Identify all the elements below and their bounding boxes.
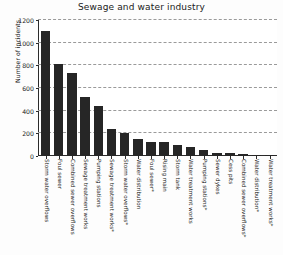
x-label-slot: Water distribution*: [250, 159, 263, 253]
x-label-slot: Water treatment works: [184, 159, 197, 253]
x-label-slot: Foul sewer*: [144, 159, 157, 253]
x-tick-label: Water distribution*: [254, 159, 260, 212]
bar-slot: [79, 20, 92, 156]
bar-slot: [263, 20, 276, 156]
x-label-slot: Storm tank: [171, 159, 184, 253]
x-label-slot: Combined sewer overflows: [65, 159, 78, 253]
bar-slot: [184, 20, 197, 156]
x-label-slot: Pumping stations*: [197, 159, 210, 253]
x-tick-label: Storm water overflows*: [122, 159, 128, 225]
x-tick-label: Rising main: [161, 159, 167, 192]
bar[interactable]: [107, 129, 116, 156]
x-tick-label: Pumping stations: [95, 159, 101, 207]
bar[interactable]: [133, 139, 142, 156]
bar-slot: [223, 20, 236, 156]
x-label-slot: Water distribution: [131, 159, 144, 253]
bar-slot: [131, 20, 144, 156]
x-tick-label: Water treatment works: [188, 159, 194, 224]
bar[interactable]: [67, 73, 76, 156]
y-tick-label: 600: [22, 85, 34, 92]
bar[interactable]: [159, 142, 168, 156]
bar-slot: [92, 20, 105, 156]
x-label-slot: Cess pits: [223, 159, 236, 253]
bar[interactable]: [94, 106, 103, 156]
y-tick-label: 0: [30, 153, 34, 160]
bar-slot: [158, 20, 171, 156]
bar[interactable]: [54, 64, 63, 156]
y-tick-label: 1000: [18, 39, 34, 46]
plot-area: 020040060080010001200: [38, 20, 277, 156]
bar-slot: [250, 20, 263, 156]
x-tick-label: Combined sewer overflows*: [240, 159, 246, 237]
x-label-slot: Combined sewer overflows*: [237, 159, 250, 253]
x-label-slot: Rising main: [158, 159, 171, 253]
y-tick-label: 400: [22, 107, 34, 114]
y-tick-label: 800: [22, 62, 34, 69]
x-tick-label: Foul sewer*: [148, 159, 154, 192]
x-label-slot: Foul sewer: [52, 159, 65, 253]
bar-slot: [210, 20, 223, 156]
bar-slot: [144, 20, 157, 156]
y-tick-mark: [36, 156, 39, 157]
x-tick-label: Sewage treatment works: [82, 159, 88, 229]
bar[interactable]: [173, 145, 182, 156]
x-tick-label: Combined sewer overflows: [69, 159, 75, 235]
x-tick-label: Cess pits: [227, 159, 233, 184]
x-tick-label: Water treatment works*: [267, 159, 273, 226]
x-label-slot: Sewage treatment works*: [105, 159, 118, 253]
bar-slot: [52, 20, 65, 156]
bar[interactable]: [80, 97, 89, 156]
bar[interactable]: [41, 31, 50, 156]
bar-slot: [105, 20, 118, 156]
bar-slot: [118, 20, 131, 156]
x-tick-label: Sewage treatment works*: [109, 159, 115, 232]
bar-slot: [237, 20, 250, 156]
bar[interactable]: [186, 147, 195, 156]
x-tick-label: Storm tank: [175, 159, 181, 190]
x-label-slot: Sewage treatment works: [79, 159, 92, 253]
y-tick-label: 1200: [18, 17, 34, 24]
x-tick-label: Sewer dykes: [214, 159, 220, 194]
x-axis-labels: Storm water overflowsFoul sewerCombined …: [38, 159, 277, 253]
bar-slot: [39, 20, 52, 156]
bar-chart: Sewage and water industry Number of inci…: [0, 0, 283, 255]
x-tick-label: Water distribution: [135, 159, 141, 209]
bar-slot: [197, 20, 210, 156]
bar-series: [38, 20, 277, 156]
bar[interactable]: [146, 142, 155, 156]
chart-title: Sewage and water industry: [0, 2, 283, 12]
bar[interactable]: [120, 133, 129, 156]
bar-slot: [65, 20, 78, 156]
x-label-slot: Pumping stations: [92, 159, 105, 253]
y-tick-label: 200: [22, 130, 34, 137]
bar-slot: [171, 20, 184, 156]
x-label-slot: Sewer dykes: [210, 159, 223, 253]
x-tick-label: Storm water overflows: [43, 159, 49, 222]
x-label-slot: Water treatment works*: [263, 159, 276, 253]
x-tick-label: Foul sewer: [56, 159, 62, 189]
x-label-slot: Storm water overflows*: [118, 159, 131, 253]
x-label-slot: Storm water overflows: [39, 159, 52, 253]
x-tick-label: Pumping stations*: [201, 159, 207, 210]
